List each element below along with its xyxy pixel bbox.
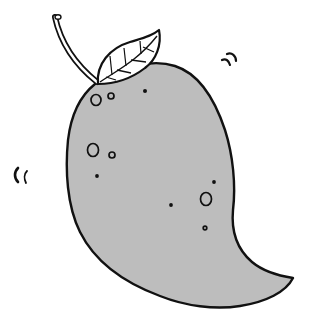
spot-dot — [143, 89, 147, 93]
mango-drawing — [0, 0, 309, 330]
stem — [55, 15, 97, 82]
mango-illustration: mango — [0, 0, 309, 330]
spot-dot — [95, 174, 99, 178]
wiggle-marks-left — [15, 168, 27, 183]
spot-dot — [212, 180, 216, 184]
spot-dot — [169, 203, 173, 207]
wiggle-marks-right — [222, 53, 236, 65]
